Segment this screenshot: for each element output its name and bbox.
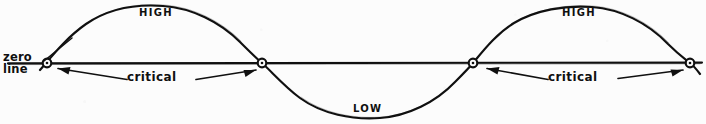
zero-crossing-node-3 bbox=[469, 59, 478, 68]
zero-crossing-node-2 bbox=[258, 59, 267, 68]
zero-axis-line bbox=[8, 63, 702, 65]
biorhythm-cycle-diagram: zero line HIGH LOW HIGH critical critica… bbox=[0, 0, 706, 124]
critical-label-right: critical bbox=[548, 71, 598, 83]
low-label-middle: LOW bbox=[353, 104, 382, 114]
high-label-right: HIGH bbox=[562, 8, 596, 18]
zero-crossing-node-1 bbox=[43, 59, 52, 68]
critical-label-left: critical bbox=[127, 71, 177, 83]
high-label-left: HIGH bbox=[139, 8, 173, 18]
sine-wave-curve bbox=[40, 5, 700, 119]
zero-crossing-node-4 bbox=[686, 59, 695, 68]
zero-line-label-line2: line bbox=[3, 64, 32, 76]
zero-line-label: zero line bbox=[3, 52, 32, 75]
zero-line-leader bbox=[44, 38, 72, 61]
